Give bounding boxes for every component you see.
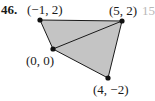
vertex-point-0-0 [50, 46, 55, 51]
vertex-point-5-2 [119, 18, 124, 23]
vertex-point-4-neg2 [105, 75, 110, 80]
quadrilateral-diagram [0, 0, 155, 101]
vertex-label-0-0: (0, 0) [26, 54, 54, 67]
figure-panel: 46. (−1, 2) (5, 2) 15 (0, 0) (4, −2) [0, 0, 155, 101]
vertex-point-neg1-2 [37, 17, 42, 22]
vertex-label-4-neg2: (4, −2) [93, 83, 129, 96]
